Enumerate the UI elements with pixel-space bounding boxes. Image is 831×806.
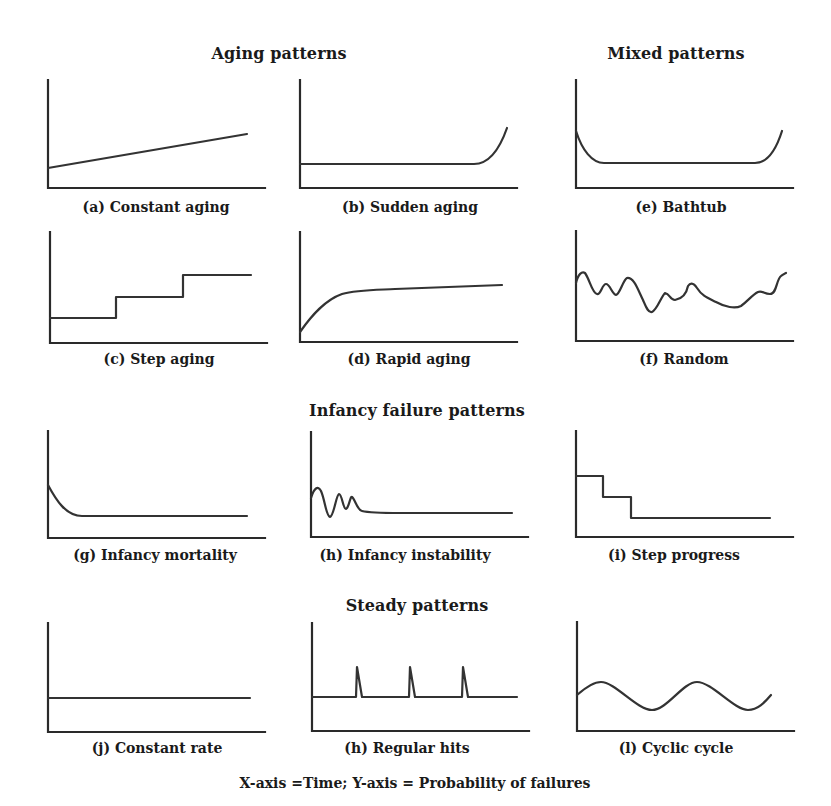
failure-curve bbox=[576, 131, 782, 163]
axes bbox=[576, 80, 793, 188]
failure-curve bbox=[48, 134, 247, 168]
section-title-infancy: Infancy failure patterns bbox=[309, 401, 525, 420]
plot-rapid-aging bbox=[300, 232, 517, 342]
axes bbox=[300, 80, 517, 188]
section-title-mixed: Mixed patterns bbox=[607, 44, 744, 63]
axes bbox=[576, 431, 793, 537]
failure-curve bbox=[311, 488, 512, 517]
plot-cyclic-cycle bbox=[577, 622, 794, 731]
failure-curve bbox=[576, 272, 786, 312]
plot-step-progress bbox=[576, 431, 793, 537]
axes bbox=[311, 432, 528, 537]
axes bbox=[300, 232, 517, 342]
failure-curve bbox=[300, 128, 507, 164]
caption-bathtub: (e) Bathtub bbox=[635, 199, 726, 215]
plot-constant-aging bbox=[48, 80, 265, 188]
caption-step-progress: (i) Step progress bbox=[608, 547, 740, 563]
caption-rapid-aging: (d) Rapid aging bbox=[348, 351, 471, 367]
failure-curve bbox=[577, 682, 771, 710]
plot-constant-rate bbox=[48, 623, 265, 732]
failure-curve bbox=[312, 667, 517, 697]
axes bbox=[48, 80, 265, 188]
axes bbox=[48, 623, 265, 732]
axes bbox=[50, 232, 267, 343]
section-title-steady: Steady patterns bbox=[346, 596, 489, 615]
plot-bathtub bbox=[576, 80, 793, 188]
plot-regular-hits bbox=[312, 623, 529, 731]
plot-infancy-instability bbox=[311, 432, 528, 537]
caption-constant-rate: (j) Constant rate bbox=[92, 740, 223, 756]
caption-cyclic-cycle: (l) Cyclic cycle bbox=[619, 740, 734, 756]
caption-constant-aging: (a) Constant aging bbox=[83, 199, 230, 215]
caption-infancy-instability: (h) Infancy instability bbox=[319, 547, 490, 563]
plot-step-aging bbox=[50, 232, 267, 343]
failure-curve bbox=[50, 275, 251, 318]
failure-curve bbox=[300, 285, 502, 332]
axes-legend-footer: X-axis =Time; Y-axis = Probability of fa… bbox=[239, 775, 590, 791]
axes bbox=[312, 623, 529, 731]
plot-random bbox=[576, 231, 793, 341]
section-title-aging: Aging patterns bbox=[211, 44, 346, 63]
axes bbox=[577, 622, 794, 731]
caption-random: (f) Random bbox=[639, 351, 728, 367]
caption-step-aging: (c) Step aging bbox=[104, 351, 215, 367]
failure-curve bbox=[576, 476, 770, 518]
plot-sudden-aging bbox=[300, 80, 517, 188]
caption-infancy-mortality: (g) Infancy mortality bbox=[73, 547, 237, 563]
caption-sudden-aging: (b) Sudden aging bbox=[342, 199, 478, 215]
caption-regular-hits: (h) Regular hits bbox=[344, 740, 469, 756]
failure-curve bbox=[48, 485, 247, 516]
plot-infancy-mortality bbox=[48, 431, 265, 538]
axes bbox=[48, 431, 265, 538]
